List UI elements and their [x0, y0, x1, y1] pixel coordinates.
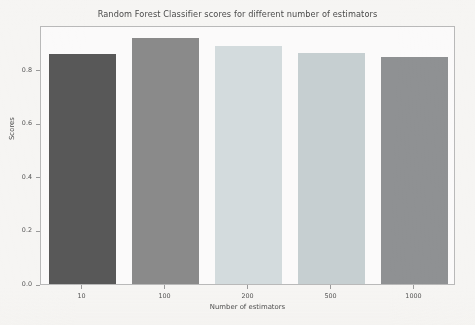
y-axis-tick-label: 0.0 — [22, 280, 32, 288]
x-axis-tick-label: 1000 — [405, 292, 421, 300]
bar — [381, 57, 447, 284]
x-axis-tick-mark — [81, 285, 82, 289]
x-axis-tick-mark — [164, 285, 165, 289]
y-axis-tick-label: 0.2 — [22, 226, 32, 234]
x-axis-tick-mark — [330, 285, 331, 289]
y-axis-label: Scores — [8, 117, 16, 140]
x-axis-tick-label: 500 — [324, 292, 336, 300]
x-axis-tick-mark — [247, 285, 248, 289]
bar — [298, 53, 364, 284]
figure-canvas: Random Forest Classifier scores for diff… — [0, 0, 475, 325]
x-axis-tick-label: 100 — [158, 292, 170, 300]
y-axis-tick-label: 0.4 — [22, 173, 32, 181]
y-axis-tick-label: 0.6 — [22, 119, 32, 127]
x-axis-tick-mark — [413, 285, 414, 289]
x-axis-label: Number of estimators — [40, 303, 455, 311]
bar — [132, 38, 198, 284]
bar — [49, 54, 115, 284]
bar — [215, 46, 281, 284]
x-axis-tick-label: 200 — [241, 292, 253, 300]
y-axis-tick-label: 0.8 — [22, 66, 32, 74]
x-axis-tick-label: 10 — [77, 292, 85, 300]
chart-title: Random Forest Classifier scores for diff… — [0, 9, 475, 19]
plot-area — [40, 26, 455, 285]
